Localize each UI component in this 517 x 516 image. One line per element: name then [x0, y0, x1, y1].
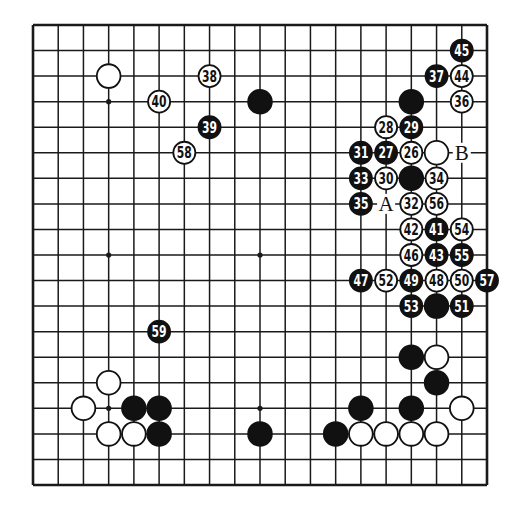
white-stone-move-46: 46 — [400, 244, 422, 266]
move-number: 30 — [379, 170, 394, 188]
white-stone-move-50: 50 — [451, 270, 473, 292]
white-stone — [425, 345, 449, 369]
point-label-a: A — [379, 192, 395, 216]
black-stone-move-51: 51 — [451, 295, 473, 317]
white-stone-move-52: 52 — [375, 270, 397, 292]
move-number: 53 — [404, 298, 419, 316]
black-stone — [147, 422, 171, 446]
move-number: 37 — [429, 68, 444, 86]
move-number: 54 — [454, 221, 469, 239]
move-number: 45 — [454, 42, 469, 60]
move-number: 47 — [353, 272, 368, 290]
white-stone — [425, 422, 449, 446]
go-board: AB 2627282930313233343536373839404142434… — [0, 0, 517, 516]
move-number: 48 — [429, 272, 444, 290]
move-number: 58 — [177, 144, 192, 162]
hoshi-point — [106, 406, 111, 411]
move-number: 35 — [353, 195, 368, 213]
black-stone-move-39: 39 — [199, 116, 221, 138]
white-stone-move-32: 32 — [400, 193, 422, 215]
move-number: 55 — [454, 247, 469, 265]
white-stone-move-38: 38 — [199, 65, 221, 87]
move-number: 32 — [404, 195, 419, 213]
move-number: 36 — [454, 93, 469, 111]
hoshi-point — [106, 252, 111, 257]
white-stone-move-42: 42 — [400, 218, 422, 240]
white-stone — [349, 422, 373, 446]
move-number: 56 — [429, 195, 444, 213]
black-stone — [147, 396, 171, 420]
move-number: 42 — [404, 221, 419, 239]
move-number: 29 — [404, 119, 419, 137]
move-number: 27 — [379, 144, 394, 162]
black-stone — [248, 90, 272, 114]
move-number: 44 — [454, 68, 469, 86]
hoshi-point — [257, 406, 262, 411]
hoshi-point — [106, 99, 111, 104]
move-number: 34 — [429, 170, 444, 188]
black-stone-move-53: 53 — [400, 295, 422, 317]
black-stone — [399, 166, 423, 190]
black-stone — [122, 396, 146, 420]
white-stone — [425, 141, 449, 165]
move-number: 31 — [353, 144, 368, 162]
black-stone — [399, 396, 423, 420]
black-stone-move-33: 33 — [350, 167, 372, 189]
black-stone-move-59: 59 — [148, 321, 170, 343]
white-stone-move-26: 26 — [400, 142, 422, 164]
black-stone-move-43: 43 — [426, 244, 448, 266]
move-number: 39 — [202, 119, 217, 137]
white-stone-move-34: 34 — [426, 167, 448, 189]
black-stone — [248, 422, 272, 446]
hoshi-point — [257, 252, 262, 257]
move-number: 41 — [429, 221, 444, 239]
white-stone — [374, 422, 398, 446]
white-stone-move-44: 44 — [451, 65, 473, 87]
move-number: 57 — [480, 272, 495, 290]
white-stone-move-58: 58 — [173, 142, 195, 164]
move-number: 43 — [429, 247, 444, 265]
black-stone — [349, 396, 373, 420]
black-stone-move-55: 55 — [451, 244, 473, 266]
move-number: 38 — [202, 68, 217, 86]
black-stone-move-47: 47 — [350, 270, 372, 292]
black-stone-move-37: 37 — [426, 65, 448, 87]
white-stone — [450, 396, 474, 420]
black-stone-move-35: 35 — [350, 193, 372, 215]
black-stone — [324, 422, 348, 446]
white-stone-move-54: 54 — [451, 218, 473, 240]
black-stone — [399, 345, 423, 369]
move-number: 26 — [404, 144, 419, 162]
white-stone — [97, 64, 121, 88]
black-stone-move-27: 27 — [375, 142, 397, 164]
move-number: 50 — [454, 272, 469, 290]
black-stone — [425, 294, 449, 318]
white-stone — [399, 422, 423, 446]
white-stone-move-48: 48 — [426, 270, 448, 292]
move-number: 46 — [404, 247, 419, 265]
move-number: 59 — [152, 323, 167, 341]
black-stone-move-29: 29 — [400, 116, 422, 138]
white-stone-move-28: 28 — [375, 116, 397, 138]
black-stone-move-41: 41 — [426, 218, 448, 240]
black-stone-move-49: 49 — [400, 270, 422, 292]
point-label-b: B — [455, 141, 469, 165]
black-stone-move-57: 57 — [476, 270, 498, 292]
white-stone — [122, 422, 146, 446]
black-stone — [425, 371, 449, 395]
move-number: 28 — [379, 119, 394, 137]
white-stone-move-40: 40 — [148, 91, 170, 113]
move-number: 52 — [379, 272, 394, 290]
white-stone-move-56: 56 — [426, 193, 448, 215]
black-stone — [399, 90, 423, 114]
white-stone — [97, 371, 121, 395]
white-stone — [72, 396, 96, 420]
white-stone — [97, 422, 121, 446]
black-stone-move-31: 31 — [350, 142, 372, 164]
white-stone-move-36: 36 — [451, 91, 473, 113]
move-number: 40 — [152, 93, 167, 111]
white-stone-move-30: 30 — [375, 167, 397, 189]
move-number: 33 — [353, 170, 368, 188]
move-number: 51 — [454, 298, 469, 316]
move-number: 49 — [404, 272, 419, 290]
